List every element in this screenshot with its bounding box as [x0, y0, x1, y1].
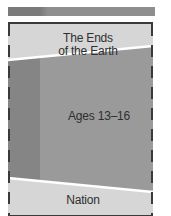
right-dashed-border [151, 24, 153, 215]
band-label-ages: Ages 13–16 [68, 110, 153, 123]
left-dashed-border [8, 24, 10, 215]
diagram-frame: The Ends of the Earth Ages 13–16 Nation [8, 22, 153, 216]
band-label-line-2: of the Earth [38, 45, 138, 58]
middle-band-left-strip [8, 57, 40, 181]
band-label-ends-of-earth: The Ends of the Earth [38, 32, 138, 58]
top-bar [8, 7, 155, 16]
band-label-nation: Nation [38, 194, 128, 207]
